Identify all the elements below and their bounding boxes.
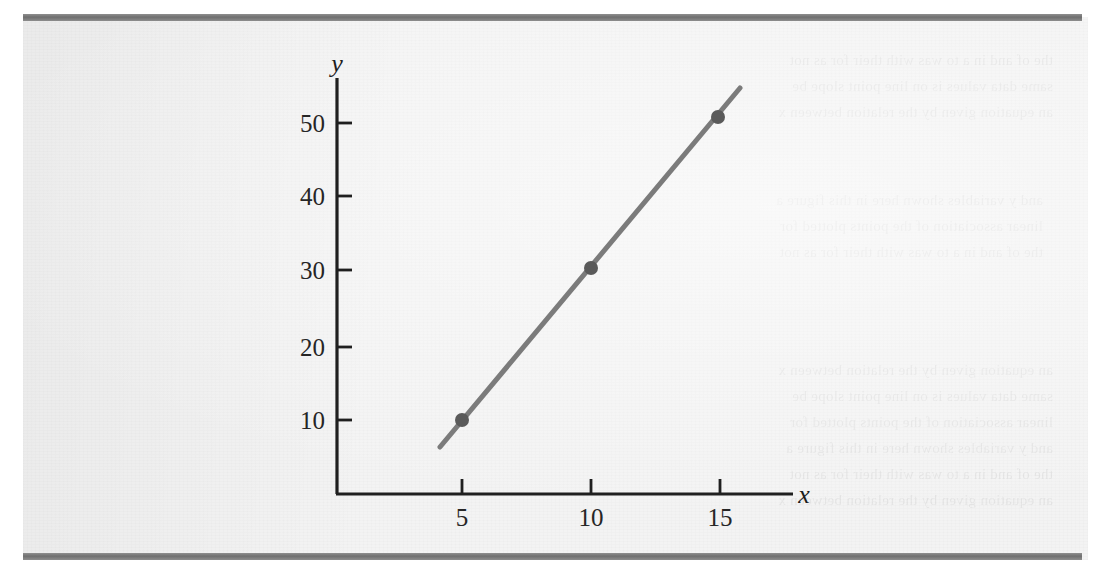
chart-canvas: 50 40 30 20 10 5 10 15 y x	[0, 0, 1113, 584]
y-tick-label: 40	[300, 183, 325, 210]
y-tick-marks	[337, 123, 352, 420]
y-tick-label: 30	[300, 257, 325, 284]
y-tick-label: 10	[300, 407, 325, 434]
y-tick-label: 20	[300, 334, 325, 361]
data-point	[584, 261, 598, 275]
figure-line-graph: 50 40 30 20 10 5 10 15 y x	[0, 0, 1113, 584]
x-axis-title: x	[797, 480, 810, 509]
x-tick-labels: 5 10 15	[456, 504, 733, 531]
data-point	[711, 110, 725, 124]
x-tick-label: 10	[579, 504, 604, 531]
axes-group	[336, 78, 793, 494]
y-tick-label: 50	[300, 110, 325, 137]
y-axis-title: y	[328, 49, 343, 78]
scanned-page: the of and in a to was with their for as…	[0, 0, 1113, 584]
x-tick-label: 15	[708, 504, 733, 531]
x-tick-label: 5	[456, 504, 469, 531]
x-tick-marks	[462, 479, 720, 494]
y-tick-labels: 50 40 30 20 10	[300, 110, 325, 434]
data-point	[455, 413, 469, 427]
